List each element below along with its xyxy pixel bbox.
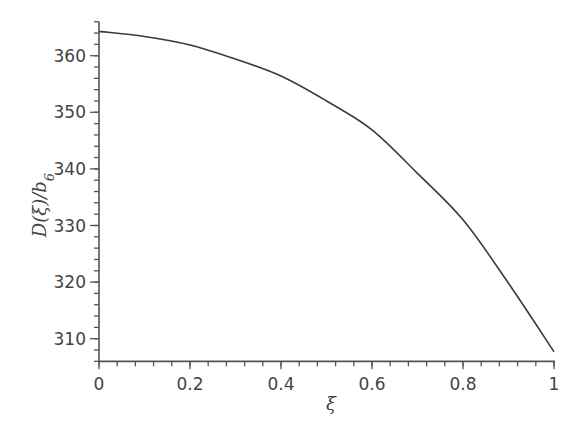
x-tick-label: 0.2 [176,374,203,394]
x-tick-label: 1 [549,374,560,394]
y-axis-label-sub: 6 [42,173,57,181]
x-tick-label: 0.4 [267,374,294,394]
y-axis-label: D(ξ)/b6 [29,173,57,238]
x-tick-label: 0.6 [358,374,385,394]
y-tick-label: 340 [54,159,86,179]
x-tick-label: 0 [94,374,105,394]
x-axis: 00.20.40.60.81 [94,361,560,394]
y-axis-label-main: D(ξ)/b [29,181,50,238]
x-axis-label: ξ [326,393,337,414]
y-tick-label: 360 [54,46,86,66]
x-tick-label: 0.8 [449,374,476,394]
data-line [99,31,554,351]
y-tick-label: 320 [54,272,86,292]
y-tick-label: 350 [54,102,86,122]
y-axis: 310320330340350360 [54,22,99,362]
line-chart: 00.20.40.60.81 310320330340350360 ξ D(ξ)… [0,0,585,434]
y-tick-label: 310 [54,329,86,349]
y-tick-label: 330 [54,216,86,236]
